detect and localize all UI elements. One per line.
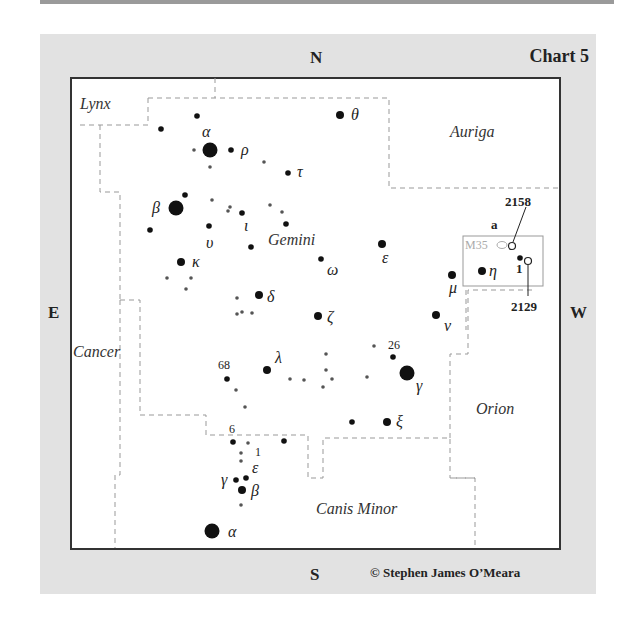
constellation-cancer: Cancer [73, 343, 121, 360]
constellation-canis-minor: Canis Minor [316, 500, 398, 517]
label-ngc2129: 2129 [511, 299, 538, 314]
label-gem-tau: τ [297, 163, 304, 180]
m35-icon [497, 242, 507, 249]
label-gem-eta: η [489, 262, 497, 280]
label-gem-epsilon: ε [382, 249, 389, 266]
label-ngc2158: 2158 [505, 194, 532, 209]
label-gem-rho: ρ [240, 141, 249, 159]
label-marker-a: a [491, 217, 498, 232]
label-gem-upsilon: υ [206, 234, 213, 251]
label-gem-zeta: ζ [327, 308, 335, 326]
label-cmi-1: 1 [255, 445, 261, 459]
label-gem-lambda: λ [274, 349, 282, 366]
label-cmi-beta: β [250, 482, 259, 500]
label-cmi-epsilon: ε [252, 459, 259, 476]
label-gem-iota: ι [244, 217, 248, 234]
label-gem-gamma: γ [416, 377, 423, 395]
label-cmi-6: 6 [229, 422, 235, 436]
label-marker-1: 1 [516, 261, 523, 276]
constellation-auriga: Auriga [449, 123, 494, 141]
constellation-lynx: Lynx [79, 95, 111, 113]
star-map: Lynx Auriga Gemini Cancer Orion Canis Mi… [0, 0, 619, 629]
label-gem-xi: ξ [396, 413, 403, 430]
stars [147, 111, 523, 539]
label-gem-theta: θ [351, 106, 359, 123]
label-gem-omega: ω [327, 261, 338, 278]
ngc2129-icon [525, 258, 532, 265]
label-cmi-gamma: γ [221, 471, 228, 489]
label-gem-nu: ν [444, 317, 452, 334]
label-cmi-alpha: α [228, 523, 237, 540]
label-gem-alpha: α [202, 123, 211, 140]
label-gem-kappa: κ [192, 253, 200, 270]
label-gem-delta: δ [267, 288, 275, 305]
star-labels: α ρ τ θ β υ ι κ ω ε δ ζ λ γ ξ μ ν η 26 6… [151, 106, 497, 540]
label-gem-mu: μ [448, 279, 457, 297]
constellation-orion: Orion [476, 400, 514, 417]
deep-sky-objects: M35 2158 a 1 2129 [465, 194, 538, 314]
constellation-gemini: Gemini [268, 231, 315, 248]
label-gem-26: 26 [388, 338, 400, 352]
label-gem-68: 68 [218, 358, 230, 372]
ngc2158-icon [509, 243, 516, 250]
label-m35: M35 [465, 238, 488, 252]
faint-stars [165, 148, 376, 507]
label-gem-beta: β [151, 199, 160, 217]
